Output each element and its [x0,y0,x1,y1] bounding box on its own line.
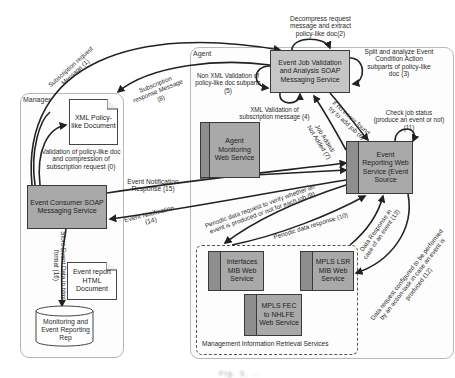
mpls-fec-service: MPLS FEC to NHLFE Web Service [256,294,302,336]
event-consumer-service: Event Consumer SOAP Messaging Service [27,185,107,229]
label-step2: Decompress request message and extract p… [283,15,358,37]
label-step3: Split and analyze Event Condition Action… [364,48,434,78]
report-doc-fold-icon [106,262,118,272]
label-step16: Store Event Data in html format (16) [53,225,68,305]
label-step15: Event Notification Response (15) [123,178,183,193]
mpls-lsr-mib-service: MPLS LSR MIB Web Service [312,251,354,291]
agent-monitoring-service: Agent Monitoring Web Service [209,122,260,178]
event-reporting-service: Event Reporting Web Service (Event Sourc… [358,141,413,194]
label-step5: Non XML Validation of policy-like doc su… [193,72,263,94]
figure-caption: Fig. 3. ... [140,369,340,378]
label-step11: Check job status (produce an event or no… [373,109,445,131]
label-step0: Validation of policy-like doc and compre… [40,148,122,170]
xml-doc-fold-icon [107,99,119,111]
interfaces-mib-service: Interfaces MIB Web Service [220,251,264,291]
event-job-validation-service: Event Job Validation and Analysis SOAP M… [270,50,350,93]
repository-label-text: Monitoring and Event Reporting Rep [41,318,90,341]
label-step4: XML Validation of subscription message (… [237,106,312,121]
repository-label: Monitoring and Event Reporting Rep [38,318,93,342]
